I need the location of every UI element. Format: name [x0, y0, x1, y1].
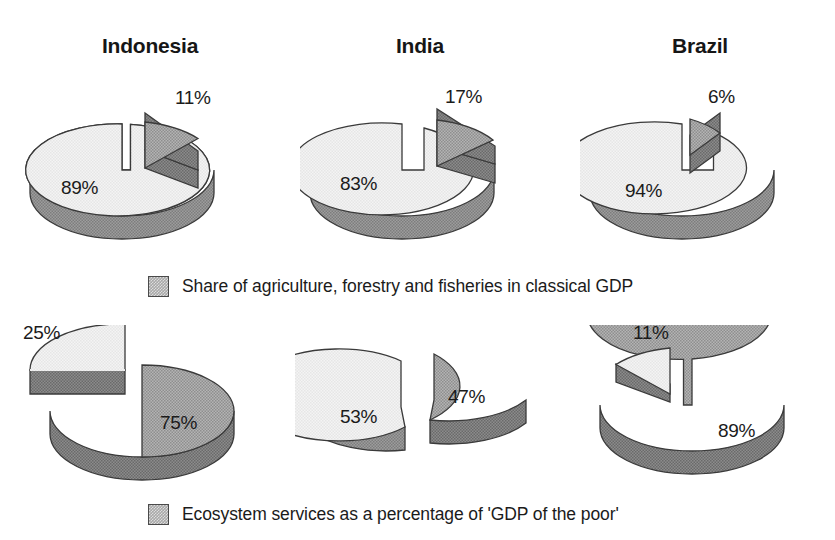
- pie-svg: [20, 325, 270, 500]
- pie-svg: [580, 95, 820, 265]
- pie-chart-india-gdp-poor: [295, 345, 555, 515]
- pie-chart-brazil-classical-gdp: [580, 95, 820, 265]
- pie-label-india-83: 83%: [340, 173, 377, 195]
- pie-chart-indonesia-gdp-poor: [20, 325, 270, 500]
- legend-gdp-of-the-poor: Ecosystem services as a percentage of 'G…: [148, 504, 619, 525]
- pie-label-brazil-11: 11%: [633, 322, 669, 344]
- column-title-brazil: Brazil: [625, 34, 775, 58]
- legend-label-classical-gdp: Share of agriculture, forestry and fishe…: [182, 276, 633, 297]
- pie-svg: [20, 95, 260, 265]
- pie-label-indonesia-75: 75%: [160, 412, 197, 434]
- figure-canvas: Indonesia India Brazil: [0, 0, 835, 540]
- column-title-indonesia: Indonesia: [55, 34, 245, 58]
- pie-label-indonesia-11: 11%: [175, 87, 211, 109]
- pie-label-india-47: 47%: [448, 386, 485, 408]
- column-title-india: India: [345, 34, 495, 58]
- pie-slice-rest-53: [295, 349, 405, 451]
- pie-label-brazil-6: 6%: [708, 86, 735, 108]
- legend-label-gdp-of-the-poor: Ecosystem services as a percentage of 'G…: [182, 504, 619, 525]
- pie-slice-rest-94: [580, 122, 774, 239]
- pie-label-india-17: 17%: [445, 86, 482, 108]
- legend-swatch-icon: [148, 504, 169, 525]
- pie-slice-rest-89: [587, 325, 784, 474]
- pie-label-brazil-94: 94%: [625, 180, 662, 202]
- pie-chart-indonesia-classical-gdp: [20, 95, 260, 265]
- pie-chart-india-classical-gdp: [300, 95, 540, 265]
- pie-chart-brazil-gdp-poor: [578, 325, 828, 500]
- pie-label-indonesia-25: 25%: [23, 322, 60, 344]
- pie-svg: [295, 345, 555, 515]
- pie-label-india-53: 53%: [340, 406, 377, 428]
- pie-svg: [300, 95, 540, 265]
- pie-label-indonesia-89: 89%: [61, 177, 98, 199]
- pie-label-brazil-89: 89%: [718, 420, 755, 442]
- legend-classical-gdp: Share of agriculture, forestry and fishe…: [148, 276, 633, 297]
- legend-swatch-icon: [148, 276, 169, 297]
- pie-slice-highlight-11: [616, 348, 670, 402]
- pie-svg: [578, 325, 828, 500]
